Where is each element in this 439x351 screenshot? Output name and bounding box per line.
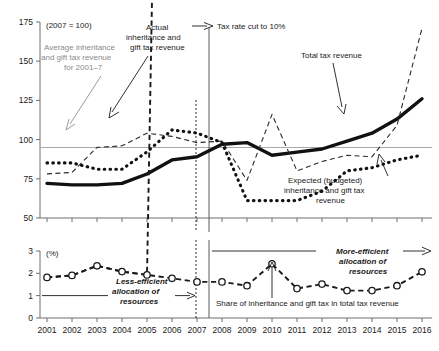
xtick-2007: 2007 bbox=[188, 325, 207, 335]
average-label-arrowhead bbox=[66, 119, 75, 130]
xtick-2012: 2012 bbox=[313, 325, 332, 335]
bottom-ytick-0: 0 bbox=[28, 313, 33, 323]
bottom-y-ticks bbox=[36, 251, 40, 318]
chart-svg: 175 150 125 100 75 50 (2007 = 100) Avera… bbox=[0, 0, 439, 351]
share-point-2013 bbox=[344, 287, 350, 293]
total-label: Total tax revenue bbox=[301, 51, 362, 60]
xtick-2001: 2001 bbox=[38, 325, 57, 335]
share-label: Share of inheritance and gift tax in tot… bbox=[216, 299, 399, 308]
index-base-note: (2007 = 100) bbox=[46, 21, 92, 30]
actual-label-line2: inheritance and bbox=[126, 33, 181, 42]
x-axis-year-labels: 2001 2002 2003 2004 2005 2006 2007 2008 … bbox=[38, 325, 432, 335]
xtick-2014: 2014 bbox=[363, 325, 382, 335]
xtick-2009: 2009 bbox=[238, 325, 257, 335]
xtick-2013: 2013 bbox=[338, 325, 357, 335]
more-efficient-line3: resources bbox=[349, 267, 388, 276]
top-ytick-150: 150 bbox=[19, 56, 33, 66]
series-expected-budgeted-inheritance-gift-tax bbox=[47, 130, 422, 201]
share-point-2012 bbox=[319, 281, 325, 287]
bottom-x-ticks bbox=[47, 318, 422, 322]
actual-label-line3: gift tax revenue bbox=[130, 43, 185, 52]
xtick-2004: 2004 bbox=[113, 325, 132, 335]
share-point-2002 bbox=[69, 272, 75, 278]
top-x-ticks bbox=[47, 218, 422, 222]
actual-label-line1: Actual bbox=[146, 23, 168, 32]
chart-figure: 175 150 125 100 75 50 (2007 = 100) Avera… bbox=[0, 0, 439, 351]
expected-label-line3: revenue bbox=[316, 196, 345, 205]
total-label-leader bbox=[333, 63, 342, 107]
expected-label-arrowhead bbox=[377, 154, 385, 164]
average-label-line2: and gift tax revenue bbox=[41, 53, 112, 62]
share-point-2014 bbox=[369, 287, 375, 293]
xtick-2011: 2011 bbox=[288, 325, 307, 335]
xtick-2008: 2008 bbox=[213, 325, 232, 335]
xtick-2006: 2006 bbox=[163, 325, 182, 335]
top-ytick-175: 175 bbox=[19, 17, 33, 27]
bottom-ytick-1: 1 bbox=[28, 291, 33, 301]
top-ytick-100: 100 bbox=[19, 135, 33, 145]
expected-label-leader bbox=[381, 160, 388, 176]
share-point-2008 bbox=[219, 279, 225, 285]
share-point-2003 bbox=[94, 263, 100, 269]
xtick-2005: 2005 bbox=[138, 325, 157, 335]
expected-label-line1: Expected (budgeted) bbox=[288, 176, 363, 185]
series-total-tax-revenue bbox=[47, 99, 422, 185]
tax-cut-label: Tax rate cut to 10% bbox=[217, 22, 285, 31]
top-ytick-125: 125 bbox=[19, 95, 33, 105]
more-efficient-line1: More-efficient bbox=[336, 247, 389, 256]
top-panel: 175 150 125 100 75 50 (2007 = 100) Avera… bbox=[19, 17, 432, 232]
share-point-2016 bbox=[419, 269, 425, 275]
expected-label-line2: inheritance and gift tax bbox=[284, 186, 365, 195]
percent-unit-note: (%) bbox=[46, 249, 59, 258]
average-label-leader bbox=[70, 76, 101, 124]
xtick-2002: 2002 bbox=[63, 325, 82, 335]
average-label-line3: for 2001–7 bbox=[64, 63, 103, 72]
average-label-line1: Average inheritance bbox=[44, 43, 116, 52]
xtick-2003: 2003 bbox=[88, 325, 107, 335]
xtick-2016: 2016 bbox=[413, 325, 432, 335]
less-efficient-line3: resources bbox=[120, 297, 159, 306]
top-ytick-50: 50 bbox=[24, 213, 34, 223]
less-efficient-line1: Less-efficient bbox=[116, 277, 168, 286]
share-point-2011 bbox=[294, 285, 300, 291]
share-point-2001 bbox=[44, 274, 50, 280]
top-y-ticks bbox=[36, 22, 40, 218]
share-point-2004 bbox=[119, 268, 125, 274]
actual-label-leader bbox=[112, 56, 148, 112]
less-efficient-line2: allocation of bbox=[112, 287, 160, 296]
bottom-ytick-3: 3 bbox=[28, 246, 33, 256]
top-ytick-75: 75 bbox=[24, 174, 34, 184]
xtick-2010: 2010 bbox=[263, 325, 282, 335]
more-efficient-line2: allocation of bbox=[339, 257, 387, 266]
xtick-2015: 2015 bbox=[388, 325, 407, 335]
share-point-2007 bbox=[194, 279, 200, 285]
bottom-ytick-2: 2 bbox=[28, 268, 33, 278]
share-point-2009 bbox=[244, 283, 250, 289]
share-point-2006 bbox=[169, 275, 175, 281]
share-point-2015 bbox=[394, 283, 400, 289]
